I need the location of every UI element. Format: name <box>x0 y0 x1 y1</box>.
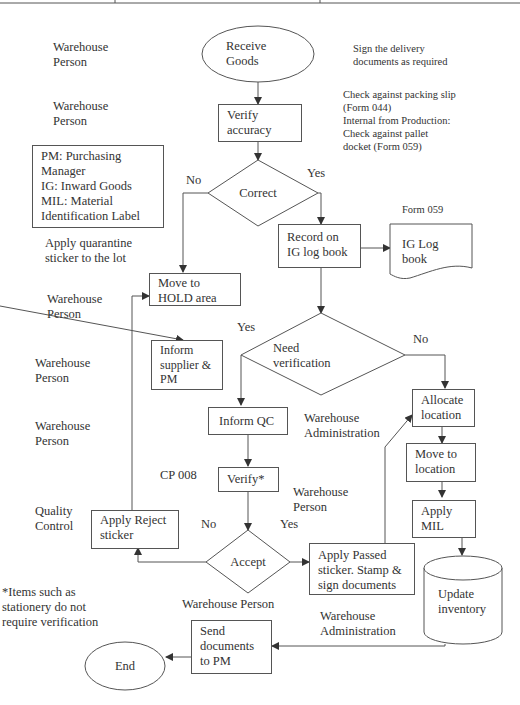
node-update-inventory: Update inventory <box>438 587 486 617</box>
node-ig-log-book: IG Log book <box>402 237 438 267</box>
role-label: Warehouse Person <box>35 419 90 449</box>
node-apply-mil: Apply MIL <box>412 500 476 538</box>
note-cp-008: CP 008 <box>160 468 197 483</box>
role-label: Warehouse Person <box>35 356 90 386</box>
branch-label-yes: Yes <box>237 320 255 335</box>
role-label: Warehouse Person <box>53 40 108 70</box>
node-move-hold-area: Move to HOLD area <box>149 273 241 306</box>
label-warehouse-administration: Warehouse Administration <box>320 609 396 639</box>
node-allocate-location: Allocate location <box>412 389 475 427</box>
branch-label-no: No <box>413 332 428 347</box>
note-form-059: Form 059 <box>402 203 443 216</box>
note-sign-delivery: Sign the delivery documents as required <box>353 42 447 68</box>
note-check-against: Check against packing slip (Form 044) In… <box>343 88 456 153</box>
node-record-ig-log: Record on IG log book <box>278 224 361 268</box>
node-accept: Accept <box>218 555 278 570</box>
legend-box: PM: Purchasing Manager IG: Inward Goods … <box>32 145 164 228</box>
footnote: *Items such as stationery do not require… <box>2 585 98 630</box>
node-verify-star: Verify* <box>218 467 279 492</box>
node-need-verification: Need verification <box>270 341 353 371</box>
node-correct: Correct <box>228 186 288 201</box>
branch-label-no: No <box>186 173 201 188</box>
branch-label-yes: Yes <box>280 517 298 532</box>
branch-label-yes: Yes <box>307 166 325 181</box>
label-warehouse-administration: Warehouse Administration <box>304 411 380 441</box>
branch-label-no: No <box>201 517 216 532</box>
label-warehouse-person: Warehouse Person <box>182 597 274 612</box>
node-receive-goods: Receive Goods <box>218 39 306 69</box>
role-label: Warehouse Person <box>47 292 102 322</box>
label-warehouse-person: Warehouse Person <box>293 485 348 515</box>
node-end: End <box>95 659 155 674</box>
role-label: Warehouse Person <box>53 99 108 129</box>
node-apply-passed-sticker: Apply Passed sticker. Stamp & sign docum… <box>309 543 415 595</box>
role-label: Quality Control <box>35 504 73 534</box>
note-quarantine: Apply quarantine sticker to the lot <box>45 236 132 266</box>
node-apply-reject-sticker: Apply Reject sticker <box>91 510 179 549</box>
node-move-to-location: Move to location <box>406 443 476 482</box>
node-inform-qc: Inform QC <box>208 407 288 435</box>
node-verify-accuracy: Verify accuracy <box>218 104 302 142</box>
node-send-documents: Send documents to PM <box>191 620 272 674</box>
node-inform-supplier: Inform supplier & PM <box>151 340 223 390</box>
flowchart: Warehouse Person Warehouse Person Wareho… <box>0 0 520 705</box>
